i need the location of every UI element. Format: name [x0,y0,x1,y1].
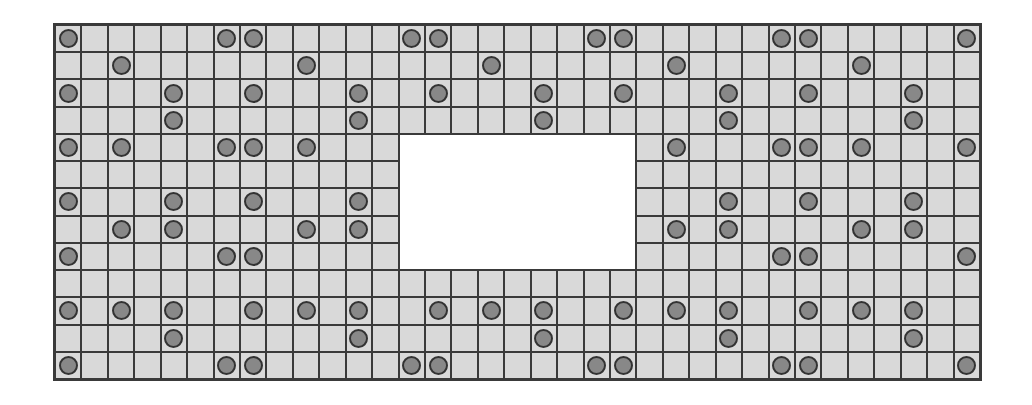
board-cell[interactable] [717,135,741,160]
peg-icon[interactable] [244,356,263,375]
board-cell[interactable] [770,162,794,187]
peg-icon[interactable] [772,356,791,375]
board-cell[interactable] [611,353,635,378]
peg-icon[interactable] [799,29,818,48]
board-cell[interactable] [82,353,106,378]
peg-icon[interactable] [349,220,368,239]
board-cell[interactable] [664,217,688,242]
peg-icon[interactable] [799,247,818,266]
peg-icon[interactable] [772,29,791,48]
board-cell[interactable] [82,53,106,78]
board-cell[interactable] [902,26,926,51]
board-cell[interactable] [637,53,661,78]
board-cell[interactable] [743,80,767,105]
board-cell[interactable] [770,53,794,78]
board-cell[interactable] [532,26,556,51]
board-cell[interactable] [294,162,318,187]
board-cell[interactable] [109,108,133,133]
peg-icon[interactable] [112,138,131,157]
peg-icon[interactable] [164,192,183,211]
peg-icon[interactable] [667,56,686,75]
peg-icon[interactable] [59,84,78,103]
board-cell[interactable] [690,26,714,51]
board-cell[interactable] [320,135,344,160]
peg-icon[interactable] [429,29,448,48]
board-cell[interactable] [902,53,926,78]
peg-icon[interactable] [164,329,183,348]
board-cell[interactable] [928,80,952,105]
peg-icon[interactable] [614,84,633,103]
board-cell[interactable] [849,326,873,351]
board-cell[interactable] [373,80,397,105]
board-cell[interactable] [82,189,106,214]
peg-icon[interactable] [719,111,738,130]
board-cell[interactable] [426,353,450,378]
board-cell[interactable] [56,244,80,269]
board-cell[interactable] [267,189,291,214]
board-cell[interactable] [162,326,186,351]
peg-icon[interactable] [852,301,871,320]
board-cell[interactable] [82,244,106,269]
board-cell[interactable] [373,353,397,378]
board-cell[interactable] [664,26,688,51]
peg-icon[interactable] [244,247,263,266]
board-cell[interactable] [505,326,529,351]
board-cell[interactable] [875,326,899,351]
peg-icon[interactable] [852,138,871,157]
peg-icon[interactable] [534,111,553,130]
peg-icon[interactable] [297,301,316,320]
board-cell[interactable] [717,108,741,133]
board-cell[interactable] [690,244,714,269]
board-cell[interactable] [505,298,529,323]
peg-icon[interactable] [587,29,606,48]
board-cell[interactable] [215,217,239,242]
peg-icon[interactable] [957,356,976,375]
board-cell[interactable] [426,53,450,78]
board-cell[interactable] [426,298,450,323]
board-cell[interactable] [215,108,239,133]
peg-icon[interactable] [904,84,923,103]
board-cell[interactable] [188,326,212,351]
peg-icon[interactable] [482,56,501,75]
board-cell[interactable] [162,108,186,133]
board-cell[interactable] [452,53,476,78]
board-cell[interactable] [796,135,820,160]
board-cell[interactable] [373,108,397,133]
peg-icon[interactable] [112,56,131,75]
board-cell[interactable] [875,244,899,269]
board-cell[interactable] [109,26,133,51]
board-cell[interactable] [320,353,344,378]
board-cell[interactable] [770,244,794,269]
board-cell[interactable] [426,80,450,105]
board-cell[interactable] [902,353,926,378]
board-cell[interactable] [770,189,794,214]
board-cell[interactable] [743,217,767,242]
board-cell[interactable] [611,80,635,105]
peg-icon[interactable] [904,220,923,239]
board-cell[interactable] [135,353,159,378]
board-cell[interactable] [875,26,899,51]
peg-icon[interactable] [772,138,791,157]
board-cell[interactable] [875,271,899,296]
board-cell[interactable] [373,189,397,214]
board-cell[interactable] [82,108,106,133]
board-cell[interactable] [267,26,291,51]
board-cell[interactable] [955,189,979,214]
board-cell[interactable] [505,53,529,78]
board-cell[interactable] [664,353,688,378]
board-cell[interactable] [822,80,846,105]
board-cell[interactable] [56,108,80,133]
board-cell[interactable] [109,53,133,78]
board-cell[interactable] [585,26,609,51]
peg-icon[interactable] [852,56,871,75]
board-cell[interactable] [294,108,318,133]
board-cell[interactable] [347,244,371,269]
board-cell[interactable] [188,217,212,242]
board-cell[interactable] [902,80,926,105]
board-cell[interactable] [902,244,926,269]
peg-icon[interactable] [667,301,686,320]
board-cell[interactable] [135,80,159,105]
board-cell[interactable] [585,353,609,378]
peg-icon[interactable] [772,247,791,266]
board-cell[interactable] [452,80,476,105]
